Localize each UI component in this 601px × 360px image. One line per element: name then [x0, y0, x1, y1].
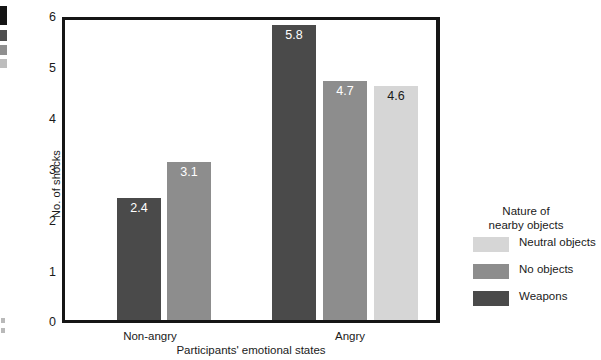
x-axis-title: Participants' emotional states	[62, 344, 440, 356]
y-tick-label-6: 6	[32, 10, 56, 24]
bar-nonangry-no-objects[interactable]: 3.1	[167, 162, 211, 320]
bar-value-label: 2.4	[117, 202, 161, 215]
bar-angry-no-objects[interactable]: 4.7	[323, 81, 367, 320]
legend-swatch-neutral-objects	[473, 237, 509, 252]
y-tick-label-4: 4	[32, 112, 56, 126]
y-tick-label-2: 2	[32, 214, 56, 228]
bar-angry-neutral-objects[interactable]: 4.6	[374, 86, 418, 320]
legend-label-neutral-objects: Neutral objects	[519, 236, 596, 248]
legend-item-no-objects[interactable]: No objects	[466, 261, 598, 286]
x-tick-label-angry: Angry	[310, 330, 390, 342]
legend-swatch-weapons	[473, 291, 509, 306]
legend-item-neutral-objects[interactable]: Neutral objects	[466, 234, 598, 259]
bar-angry-weapons[interactable]: 5.8	[272, 25, 316, 320]
legend-swatch-no-objects	[473, 264, 509, 279]
legend-title: Nature of nearby objects	[470, 205, 582, 232]
bar-nonangry-weapons[interactable]: 2.4	[117, 198, 161, 320]
bar-value-label: 5.8	[272, 29, 316, 42]
plot-area: 2.4 3.1 5.8 4.7 4.6	[62, 17, 440, 323]
legend-item-weapons[interactable]: Weapons	[466, 288, 598, 313]
y-tick-label-3: 3	[32, 163, 56, 177]
x-tick-label-non-angry: Non-angry	[110, 330, 190, 342]
legend-title-line-2: nearby objects	[470, 219, 582, 233]
y-tick-label-1: 1	[32, 265, 56, 279]
legend-label-no-objects: No objects	[519, 263, 573, 275]
bar-value-label: 3.1	[167, 166, 211, 179]
bar-chart: No. of shocks 6 5 4 3 2 1 0 2.4 3.1	[0, 0, 601, 360]
legend-label-weapons: Weapons	[519, 290, 567, 302]
y-tick-label-0: 0	[32, 315, 56, 329]
bar-value-label: 4.6	[374, 90, 418, 103]
y-tick-label-5: 5	[32, 61, 56, 75]
bar-value-label: 4.7	[323, 85, 367, 98]
legend: Nature of nearby objects Neutral objects…	[466, 205, 598, 313]
legend-title-line-1: Nature of	[470, 205, 582, 219]
